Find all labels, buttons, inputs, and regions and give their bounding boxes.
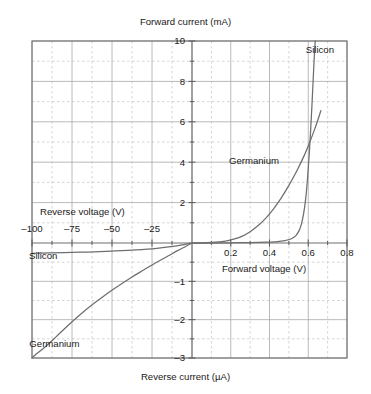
xtick-reverse-2: –50 [104,223,120,234]
axis-title-forward-voltage: Forward voltage (V) [222,263,306,274]
xtick-forward-0: 0.2 [224,247,237,258]
axis-title-reverse-current: Reverse current (µA) [141,371,230,382]
ytick-forward-2: 6 [180,116,185,127]
axis-title-forward-current: Forward current (mA) [140,16,231,27]
axis-title-reverse-voltage: Reverse voltage (V) [40,206,125,217]
ytick-reverse-1: –2 [174,314,185,325]
ytick-forward-1: 4 [180,157,186,168]
series-label-germanium-reverse: Germanium [29,338,79,349]
chart-background [0,0,371,394]
series-label-silicon-forward: Silicon [306,44,334,55]
ytick-forward-0: 2 [180,197,185,208]
chart-svg: –100–75–50–250.20.40.60.8246810–1–2–3 Fo… [0,0,371,394]
ytick-forward-3: 8 [180,76,185,87]
diode-characteristic-chart: –100–75–50–250.20.40.60.8246810–1–2–3 Fo… [0,0,371,394]
series-label-germanium-forward: Germanium [229,155,279,166]
xtick-reverse-0: –100 [21,223,42,234]
xtick-forward-3: 0.8 [340,247,353,258]
series-label-silicon-reverse: Silicon [29,250,57,261]
xtick-forward-1: 0.4 [263,247,277,258]
xtick-reverse-1: –75 [64,223,80,234]
ytick-reverse-0: –1 [174,276,185,287]
ytick-forward-4: 10 [174,35,185,46]
xtick-reverse-3: –25 [144,223,160,234]
ytick-reverse-2: –3 [174,352,185,363]
xtick-forward-2: 0.6 [302,247,315,258]
